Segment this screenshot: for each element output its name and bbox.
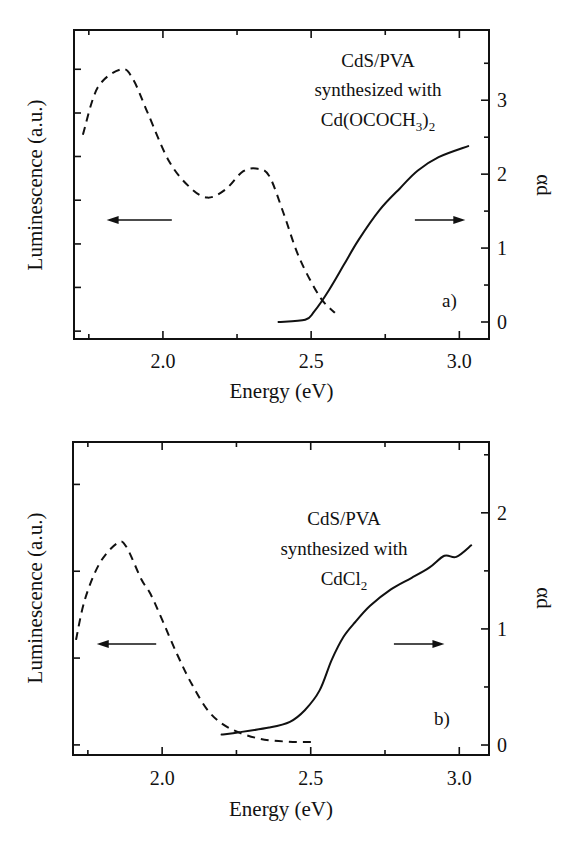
x-tick-label: 3.0	[447, 350, 472, 372]
y-right-axis-label: αd	[532, 174, 556, 196]
y-right-tick-label: 0	[497, 311, 507, 333]
y-left-axis-label: Luminescence (a.u.)	[23, 100, 47, 271]
x-axis-label: Energy (eV)	[230, 379, 334, 403]
annotation-line-2: synthesized with	[314, 79, 442, 100]
y-right-tick-label: 0	[497, 734, 507, 756]
plot-frame	[73, 442, 489, 755]
arrow-left-icon	[97, 640, 156, 648]
arrow-left-icon	[107, 216, 172, 224]
y-right-tick-label: 2	[497, 163, 507, 185]
arrow-head	[97, 640, 109, 648]
y-right-tick-label: 3	[497, 89, 507, 111]
annotation-subscript: 2	[429, 119, 436, 134]
figure: 2.02.53.00123Energy (eV)Luminescence (a.…	[0, 0, 576, 847]
y-right-tick-label: 1	[497, 237, 507, 259]
annotation-line-3: Cd(OCOCH3)2	[321, 109, 435, 134]
annotation-line-2: synthesized with	[280, 538, 408, 559]
annotation-line-3: CdCl2	[321, 568, 368, 593]
x-axis-label: Energy (eV)	[229, 797, 333, 821]
annotation-subscript: 2	[361, 578, 368, 593]
luminescence-curve	[76, 541, 317, 742]
x-tick-label: 2.5	[298, 767, 323, 789]
panel-a: 2.02.53.00123Energy (eV)Luminescence (a.…	[23, 30, 556, 403]
x-tick-label: 2.0	[150, 767, 175, 789]
arrow-right-icon	[415, 216, 465, 224]
y-left-axis-label: Luminescence (a.u.)	[23, 513, 47, 684]
annotation-text: Cd(OCOCH	[321, 109, 416, 131]
x-tick-label: 2.0	[150, 350, 175, 372]
x-tick-label: 2.5	[299, 350, 324, 372]
panel-label: a)	[442, 290, 457, 312]
y-right-tick-label: 1	[497, 618, 507, 640]
annotation-line-1: CdS/PVA	[307, 508, 381, 529]
y-right-axis-label: αd	[532, 587, 556, 609]
arrow-head	[107, 216, 119, 224]
arrow-right-icon	[394, 640, 445, 648]
panel-label: b)	[434, 708, 450, 730]
arrow-head	[432, 640, 444, 648]
luminescence-curve	[83, 69, 335, 313]
annotation-line-1: CdS/PVA	[341, 50, 415, 71]
x-tick-label: 3.0	[447, 767, 472, 789]
plot-frame	[74, 30, 489, 339]
panel-b: 2.02.53.0012Energy (eV)Luminescence (a.u…	[23, 442, 556, 821]
y-right-tick-label: 2	[497, 502, 507, 524]
arrow-head	[453, 216, 465, 224]
annotation-text: CdCl	[321, 568, 361, 589]
alpha-d-curve	[279, 146, 469, 322]
